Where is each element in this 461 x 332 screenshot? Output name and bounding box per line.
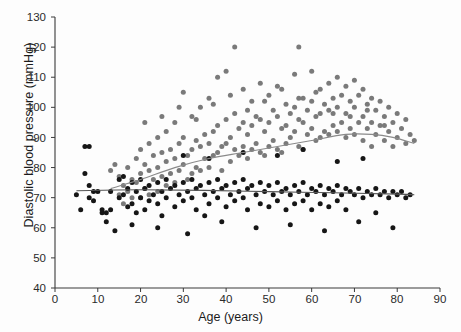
y-tick-marks — [51, 17, 55, 288]
x-tick-marks — [55, 288, 440, 292]
scatter-plot-figure: Diastolic blood pressure (mmHg) Age (yea… — [0, 0, 461, 332]
axis-spines — [55, 17, 440, 288]
gray-trend-line — [111, 134, 415, 189]
plot-canvas — [0, 0, 461, 332]
